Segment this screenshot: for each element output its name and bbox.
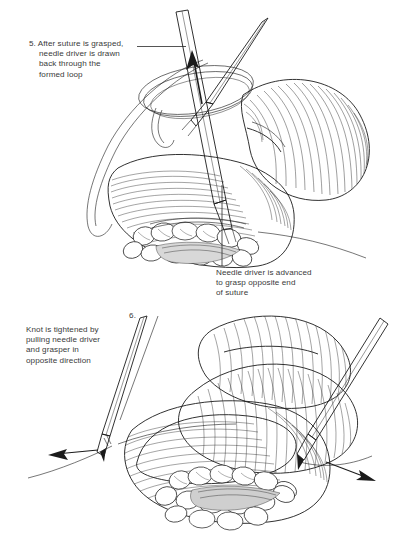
caption-step-6: Knot is tightened by pulling needle driv…: [26, 325, 156, 366]
grasper-lower: [297, 318, 388, 470]
bowel-crease-back: [224, 346, 318, 354]
tension-arrow-right: [326, 462, 376, 481]
bowel-loop-lower-front: [178, 364, 357, 473]
fat-lobules-upper: [121, 221, 261, 269]
caption-step-5: 5. After suture is grasped, needle drive…: [29, 39, 189, 80]
step-number-6: 6.: [96, 311, 136, 321]
bowel-loop-lower-back: [198, 313, 350, 408]
grasper-upper: [182, 18, 268, 136]
annotation-needle-driver-advanced: Needle driver is advanced to grasp oppos…: [216, 268, 376, 299]
mesentery-mass-upper: [108, 154, 294, 268]
suture-tail-right: [258, 232, 366, 258]
tension-arrow-left: [48, 449, 98, 460]
bowel-loop-upper: [241, 79, 369, 200]
surgical-illustration-figure: 5. After suture is grasped, needle drive…: [0, 0, 399, 551]
suture-loop: [87, 58, 257, 236]
